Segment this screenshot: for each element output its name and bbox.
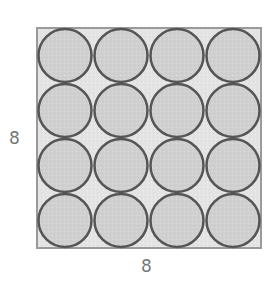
circle <box>39 139 92 192</box>
side-length-label-left: 8 <box>9 130 20 147</box>
circle <box>95 84 148 137</box>
circle <box>39 194 92 247</box>
circle <box>39 84 92 137</box>
circle <box>95 29 148 82</box>
circle <box>151 194 204 247</box>
circle <box>95 194 148 247</box>
circle <box>151 29 204 82</box>
diagram-figure <box>0 0 277 286</box>
side-length-label-bottom: 8 <box>141 258 152 275</box>
circle <box>207 29 260 82</box>
circle <box>207 194 260 247</box>
circle <box>207 139 260 192</box>
circle <box>39 29 92 82</box>
circle <box>151 139 204 192</box>
circle <box>207 84 260 137</box>
circle <box>95 139 148 192</box>
circles-in-square-diagram: 8 8 <box>0 0 277 286</box>
circle <box>151 84 204 137</box>
